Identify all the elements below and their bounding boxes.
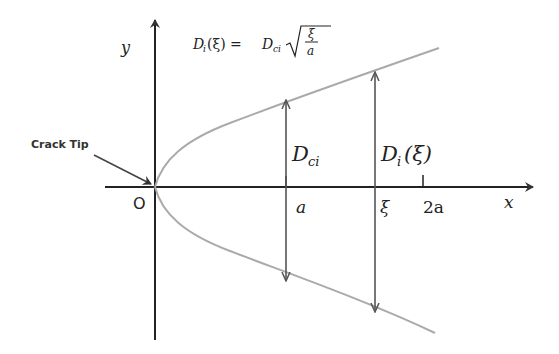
crack-tip-label: Crack Tip [31, 138, 89, 151]
origin-label: O [133, 194, 146, 213]
tick-label-xi: ξ [380, 197, 391, 217]
svg-text:ci: ci [273, 44, 281, 54]
svg-text:D: D [291, 142, 309, 166]
svg-text:ξ: ξ [308, 27, 316, 41]
svg-text:D: D [261, 36, 273, 52]
svg-text:i: i [397, 154, 401, 169]
dci-label: D ci [291, 142, 319, 169]
svg-text:i: i [203, 44, 206, 54]
tick-label-2a: 2a [423, 197, 444, 217]
y-axis-label: y [120, 38, 131, 57]
opening-formula: D i (ξ) = D ci ξ a [192, 26, 331, 58]
lower-crack-profile-curve [155, 187, 435, 333]
svg-text:ci: ci [308, 154, 319, 169]
tick-label-a: a [296, 197, 306, 217]
di-label: D i (ξ) [380, 142, 432, 169]
crack-opening-diagram: Crack Tip O y x a ξ 2a D ci D i (ξ) D i … [0, 0, 559, 354]
crack-tip-pointer-arrow [94, 155, 151, 184]
svg-text:(ξ) =: (ξ) = [207, 36, 242, 52]
svg-text:(ξ): (ξ) [404, 142, 432, 166]
svg-text:D: D [380, 142, 398, 166]
x-axis-label: x [504, 192, 514, 212]
svg-text:a: a [307, 44, 314, 58]
